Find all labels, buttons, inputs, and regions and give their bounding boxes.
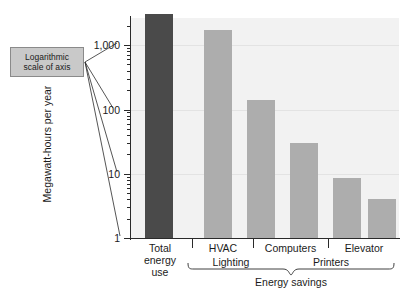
y-tick-minor: [127, 154, 132, 155]
y-tick-minor: [127, 219, 132, 220]
y-tick-minor: [127, 64, 132, 65]
y-tick-minor: [127, 199, 132, 200]
y-tick-label-1: 1: [78, 232, 120, 244]
y-tick-minor: [127, 71, 132, 72]
x-label-total-line1: Total: [130, 242, 190, 254]
y-tick-minor: [127, 124, 132, 125]
bar-printers: [333, 178, 361, 238]
energy-savings-label: Energy savings: [186, 276, 396, 288]
y-tick-minor: [127, 55, 132, 56]
bar-hvac: [204, 30, 232, 238]
x-axis-line: [130, 238, 400, 239]
y-tick-label-100: 100: [78, 104, 120, 116]
bar-elevator: [368, 199, 396, 238]
y-tick-major-100: [124, 110, 131, 111]
bar-computers: [290, 143, 318, 238]
y-tick-minor: [127, 59, 132, 60]
y-tick-minor: [127, 79, 132, 80]
y-tick-minor: [127, 143, 132, 144]
x-label-hvac: HVAC: [192, 242, 254, 254]
y-tick-minor: [127, 207, 132, 208]
bar-lighting: [247, 100, 275, 238]
y-tick-minor: [127, 129, 132, 130]
y-tick-minor: [127, 177, 132, 178]
y-tick-major-10: [124, 174, 131, 175]
chart-figure: 1,000 100 10 1 Megawatt-hours per year L…: [0, 0, 405, 298]
y-tick-minor: [127, 48, 132, 49]
y-tick-major-1000: [124, 45, 131, 46]
x-label-elevator: Elevator: [328, 242, 400, 254]
bar-group: [131, 18, 399, 238]
y-tick-minor: [127, 119, 132, 120]
energy-savings-brace: [186, 262, 396, 276]
y-tick-minor: [127, 116, 132, 117]
y-axis-title: Megawatt-hours per year: [41, 64, 53, 224]
y-tick-major-1: [124, 238, 131, 239]
x-label-computers: Computers: [253, 242, 328, 254]
callout-line-1: Logarithmic: [25, 52, 69, 62]
y-tick-minor: [127, 112, 132, 113]
y-tick-minor: [127, 135, 132, 136]
y-tick-label-1000: 1,000: [78, 39, 120, 51]
y-tick-minor: [127, 188, 132, 189]
y-tick-minor: [127, 184, 132, 185]
x-label-total-line3: use: [130, 266, 190, 278]
y-tick-minor: [127, 51, 132, 52]
y-tick-minor: [127, 26, 132, 27]
callout-line-2: scale of axis: [24, 62, 71, 72]
x-label-total-energy-use: Total energy use: [130, 242, 190, 278]
y-tick-minor: [127, 90, 132, 91]
y-tick-label-10: 10: [78, 168, 120, 180]
y-tick-minor: [127, 180, 132, 181]
y-tick-minor: [127, 193, 132, 194]
callout-logarithmic-scale: Logarithmic scale of axis: [10, 47, 84, 77]
x-label-total-line2: energy: [130, 254, 190, 266]
bar-total-energy-use: [145, 14, 173, 238]
